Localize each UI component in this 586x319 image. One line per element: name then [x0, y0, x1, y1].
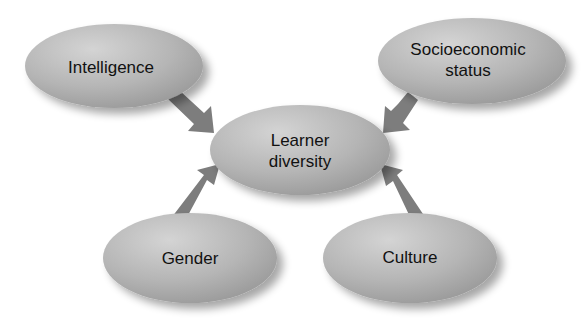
label-learner-diversity: Learner diversity [269, 130, 331, 172]
label-line: status [410, 60, 525, 81]
arrow-socioeconomic-to-center [383, 92, 418, 133]
label-line: diversity [269, 151, 331, 172]
label-line: Gender [162, 248, 219, 269]
label-line: Learner [269, 130, 331, 151]
label-intelligence: Intelligence [68, 57, 154, 78]
label-gender: Gender [162, 248, 219, 269]
label-culture: Culture [383, 247, 438, 268]
label-line: Intelligence [68, 57, 154, 78]
arrow-culture-to-center [380, 164, 425, 219]
arrow-gender-to-center [172, 164, 220, 219]
label-socioeconomic-status: Socioeconomic status [410, 39, 525, 81]
label-line: Culture [383, 247, 438, 268]
label-line: Socioeconomic [410, 39, 525, 60]
